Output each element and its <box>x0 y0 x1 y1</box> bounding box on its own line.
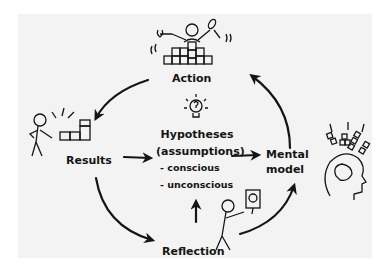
arrow-mentalmodel-to-action <box>252 76 290 148</box>
person-building-blocks-with-tools-icon <box>151 18 231 64</box>
action-label: Action <box>172 72 211 85</box>
person-holding-mirror-icon <box>216 190 260 250</box>
hypotheses-item-unconscious: - unconscious <box>160 179 233 191</box>
mental-model-label-line2: model <box>266 163 304 176</box>
head-with-blocks-icon <box>325 122 370 200</box>
arrow-results-to-reflection <box>96 178 152 240</box>
person-looking-at-blocks-icon <box>30 108 90 156</box>
results-label: Results <box>66 154 112 167</box>
lightbulb-question-icon <box>184 94 208 117</box>
hypotheses-item-conscious: - conscious <box>160 162 220 174</box>
mental-model-label-line1: Mental <box>266 148 309 161</box>
arrow-results-to-hypotheses <box>124 157 150 158</box>
arrow-reflection-to-mentalmodel <box>240 186 294 234</box>
reflection-label: Reflection <box>162 245 224 258</box>
hypotheses-subtitle: (assumptions) <box>156 145 238 158</box>
hypotheses-title: Hypotheses <box>160 128 234 141</box>
arrow-action-to-results <box>96 80 148 118</box>
